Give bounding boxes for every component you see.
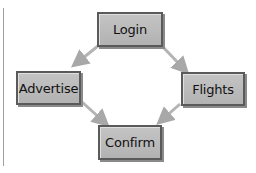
- node-advertise: Advertise: [16, 71, 81, 105]
- edge-advertise-confirm: [82, 102, 103, 121]
- node-label: Advertise: [19, 81, 79, 96]
- node-confirm: Confirm: [98, 125, 162, 160]
- node-login: Login: [97, 12, 163, 47]
- node-flights: Flights: [181, 72, 245, 106]
- node-label: Flights: [192, 82, 234, 97]
- edge-login-flights: [162, 46, 183, 68]
- edge-login-advertise: [78, 46, 98, 62]
- node-label: Confirm: [105, 135, 155, 150]
- edge-flights-confirm: [163, 104, 180, 119]
- node-label: Login: [113, 22, 147, 37]
